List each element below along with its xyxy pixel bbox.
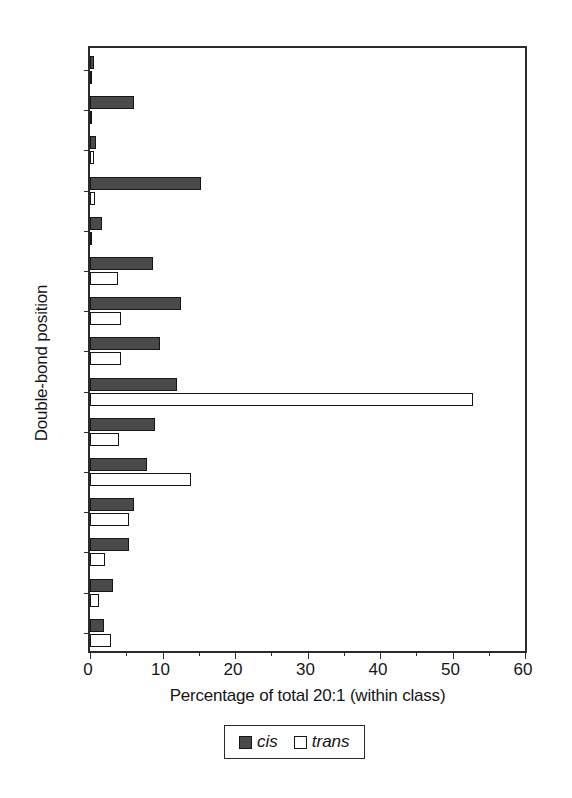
x-axis-minor-tick-15 — [199, 651, 200, 656]
bar-row — [90, 289, 525, 329]
bar-cis-16 — [90, 579, 113, 592]
legend-swatch-trans-icon — [294, 736, 307, 749]
bar-trans-6 — [90, 192, 95, 205]
y-axis-tick — [84, 633, 90, 634]
plot-area: 34567891011121314151617 — [88, 46, 527, 653]
x-axis-tick-10 — [163, 651, 164, 659]
y-axis-tick — [84, 70, 90, 71]
y-axis-tick — [84, 593, 90, 594]
x-axis-tick-30 — [308, 651, 309, 659]
legend-swatch-cis-icon — [239, 736, 252, 749]
x-axis-title: Percentage of total 20:1 (within class) — [88, 686, 527, 706]
bar-trans-4 — [90, 111, 92, 124]
bar-row — [90, 530, 525, 570]
bar-row — [90, 249, 525, 289]
bar-trans-7 — [90, 232, 92, 245]
bar-row — [90, 490, 525, 530]
bar-trans-10 — [90, 352, 121, 365]
bar-cis-9 — [90, 297, 181, 310]
x-axis-minor-tick-45 — [416, 651, 417, 656]
x-axis-tick-20 — [235, 651, 236, 659]
bar-cis-13 — [90, 458, 147, 471]
x-axis-tick-label-40: 40 — [348, 660, 408, 680]
y-axis-tick — [84, 432, 90, 433]
bar-trans-12 — [90, 433, 119, 446]
x-axis-tick-40 — [380, 651, 381, 659]
bar-row — [90, 410, 525, 450]
bar-chart-figure: Double-bond position 3456789101112131415… — [0, 0, 572, 798]
legend-label-trans: trans — [312, 732, 350, 752]
bar-row — [90, 88, 525, 128]
bar-row — [90, 571, 525, 611]
bar-trans-13 — [90, 473, 191, 486]
bar-cis-8 — [90, 257, 153, 270]
bar-cis-17 — [90, 619, 104, 632]
y-axis-tick — [84, 392, 90, 393]
x-axis-tick-label-10: 10 — [131, 660, 191, 680]
x-axis-tick-label-60: 60 — [493, 660, 553, 680]
x-axis-tick-label-0: 0 — [58, 660, 118, 680]
bar-trans-17 — [90, 634, 111, 647]
y-axis-tick — [84, 110, 90, 111]
bar-trans-3 — [90, 71, 92, 84]
x-axis-tick-label-20: 20 — [203, 660, 263, 680]
bar-trans-11 — [90, 393, 473, 406]
chart-legend: cis trans — [224, 725, 365, 759]
bar-row — [90, 128, 525, 168]
bar-cis-12 — [90, 418, 155, 431]
bar-row — [90, 169, 525, 209]
bar-row — [90, 370, 525, 410]
y-axis-tick — [84, 552, 90, 553]
bar-cis-14 — [90, 498, 134, 511]
y-axis-tick — [84, 271, 90, 272]
bar-row — [90, 450, 525, 490]
x-axis-tick-label-30: 30 — [276, 660, 336, 680]
x-axis-minor-tick-35 — [344, 651, 345, 656]
y-axis-tick — [84, 231, 90, 232]
x-axis-tick-label-50: 50 — [421, 660, 481, 680]
bar-trans-16 — [90, 594, 99, 607]
bar-cis-10 — [90, 337, 160, 350]
y-axis-tick — [84, 311, 90, 312]
bar-row — [90, 329, 525, 369]
y-axis-tick — [84, 472, 90, 473]
bar-cis-7 — [90, 217, 102, 230]
bar-trans-8 — [90, 272, 118, 285]
x-axis-tick-60 — [525, 651, 526, 659]
bar-cis-15 — [90, 538, 129, 551]
bar-row — [90, 209, 525, 249]
y-axis-tick — [84, 150, 90, 151]
bar-trans-9 — [90, 312, 121, 325]
x-axis-tick-0 — [90, 651, 91, 659]
y-axis-tick — [84, 191, 90, 192]
bar-trans-14 — [90, 513, 129, 526]
y-axis-tick — [84, 512, 90, 513]
bar-cis-5 — [90, 136, 96, 149]
y-axis-title: Double-bond position — [32, 233, 52, 493]
x-axis-tick-50 — [453, 651, 454, 659]
x-axis-minor-tick-55 — [489, 651, 490, 656]
bar-trans-5 — [90, 151, 94, 164]
x-axis-minor-tick-5 — [126, 651, 127, 656]
bar-row — [90, 48, 525, 88]
bar-trans-15 — [90, 553, 105, 566]
bar-row — [90, 611, 525, 651]
x-axis-minor-tick-25 — [271, 651, 272, 656]
bar-cis-4 — [90, 96, 134, 109]
bar-cis-3 — [90, 56, 94, 69]
legend-label-cis: cis — [257, 732, 278, 752]
y-axis-tick — [84, 351, 90, 352]
legend-entry-cis: cis — [239, 732, 278, 752]
bar-cis-6 — [90, 177, 201, 190]
bar-cis-11 — [90, 378, 177, 391]
legend-entry-trans: trans — [294, 732, 350, 752]
